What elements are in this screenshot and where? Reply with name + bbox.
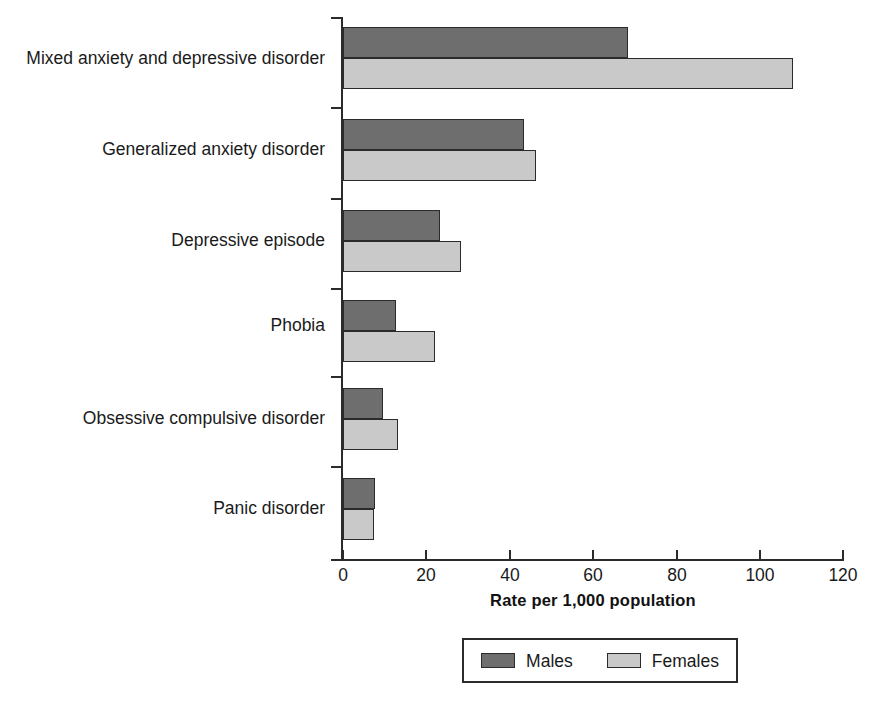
category-label-panic-disorder: Panic disorder <box>213 498 325 518</box>
x-axis-tick-label-20: 20 <box>396 565 456 585</box>
bar-females-mixed-anxiety-and-depressive-disorder <box>343 58 793 89</box>
category-label-generalized-anxiety-disorder: Generalized anxiety disorder <box>102 139 325 159</box>
x-axis-tick-label-0: 0 <box>313 565 373 585</box>
x-axis-tick <box>759 550 761 561</box>
legend-entry-females: Females <box>607 651 719 671</box>
x-axis-tick <box>592 550 594 561</box>
legend-label-males: Males <box>526 651 573 671</box>
bar-females-obsessive-compulsive-disorder <box>343 419 398 450</box>
category-label-obsessive-compulsive-disorder: Obsessive compulsive disorder <box>83 408 325 428</box>
category-label-depressive-episode: Depressive episode <box>171 230 325 250</box>
bar-males-mixed-anxiety-and-depressive-disorder <box>343 27 628 58</box>
category-label-mixed-anxiety-and-depressive-disorder: Mixed anxiety and depressive disorder <box>26 48 325 68</box>
y-axis-tick <box>331 17 342 19</box>
bar-males-generalized-anxiety-disorder <box>343 119 524 150</box>
chart-page: Mixed anxiety and depressive disorder Ge… <box>0 0 876 713</box>
x-axis-tick-label-100: 100 <box>730 565 790 585</box>
bar-females-depressive-episode <box>343 241 461 272</box>
bar-males-panic-disorder <box>343 478 375 509</box>
x-axis-title: Rate per 1,000 population <box>343 591 843 610</box>
bar-females-phobia <box>343 331 435 362</box>
x-axis-tick-label-120: 120 <box>813 565 873 585</box>
x-axis-tick <box>676 550 678 561</box>
y-axis-tick <box>331 376 342 378</box>
x-axis-tick <box>509 550 511 561</box>
x-axis-tick <box>425 550 427 561</box>
x-axis-tick-label-80: 80 <box>647 565 707 585</box>
x-axis-tick <box>842 550 844 561</box>
bar-males-obsessive-compulsive-disorder <box>343 388 383 419</box>
legend-swatch-females-icon <box>607 653 641 668</box>
bar-females-generalized-anxiety-disorder <box>343 150 536 181</box>
chart-legend: Males Females <box>462 638 738 683</box>
category-label-phobia: Phobia <box>271 315 326 335</box>
y-axis-tick <box>331 198 342 200</box>
bar-females-panic-disorder <box>343 509 374 540</box>
legend-label-females: Females <box>652 651 719 671</box>
x-axis-tick-label-40: 40 <box>480 565 540 585</box>
bar-males-depressive-episode <box>343 210 440 241</box>
y-axis-tick <box>331 288 342 290</box>
x-axis-tick-label-60: 60 <box>563 565 623 585</box>
legend-entry-males: Males <box>481 651 573 671</box>
bar-males-phobia <box>343 300 396 331</box>
y-axis-tick <box>331 466 342 468</box>
bar-chart-plot-area: Mixed anxiety and depressive disorder Ge… <box>0 0 876 713</box>
legend-swatch-males-icon <box>481 653 515 668</box>
x-axis-tick <box>342 550 344 561</box>
y-axis-tick <box>331 107 342 109</box>
